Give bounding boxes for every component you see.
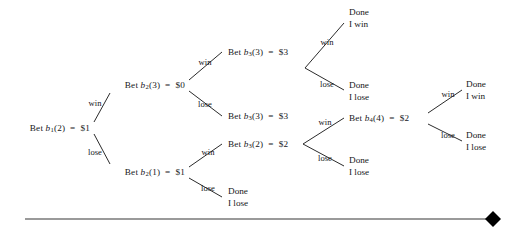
betting-decision-tree: Bet b1(2) = $1 Bet b2(3) = $0 Bet b2(1) … (0, 0, 521, 236)
terminal-outcome: Done I lose (349, 155, 369, 178)
terminal-outcome: Done I win (349, 7, 369, 30)
terminal-line-done: Done (349, 155, 369, 167)
terminal-outcome: Done I lose (228, 186, 248, 209)
terminal-line-done: Done (466, 130, 486, 142)
edge-label-b23-lose: lose (198, 99, 212, 109)
terminal-line-done: Done (228, 186, 248, 198)
node-bet-b2-1: Bet b2(1) = $1 (125, 167, 185, 178)
edge-label-b44-lose: lose (441, 130, 455, 140)
terminal-line-result: I lose (349, 91, 369, 103)
node-bet-b1-2: Bet b1(2) = $1 (30, 123, 90, 134)
terminal-line-result: I lose (228, 197, 248, 209)
edge-label-b32-lose: lose (318, 153, 332, 163)
edge-label-root-lose: lose (88, 147, 102, 157)
edge-label-b21-win: win (202, 147, 215, 157)
terminal-line-result: I win (466, 90, 486, 102)
terminal-line-done: Done (349, 7, 369, 19)
terminal-line-done: Done (349, 80, 369, 92)
node-bet-b4-4: Bet b4(4) = $2 (349, 113, 409, 124)
terminal-line-result: I lose (349, 166, 369, 178)
terminal-outcome: Done I lose (466, 130, 486, 153)
edge-label-b33-lose: lose (320, 79, 334, 89)
edge-label-b32-win: win (319, 117, 332, 127)
node-bet-b2-3: Bet b2(3) = $0 (125, 80, 185, 91)
terminal-line-result: I lose (466, 141, 486, 153)
node-bet-b3-3-lower: Bet b3(3) = $3 (228, 111, 288, 122)
terminal-outcome: Done I lose (349, 80, 369, 103)
edge-label-b33-win: win (321, 37, 334, 47)
node-bet-b3-3-upper: Bet b3(3) = $3 (228, 47, 288, 58)
terminal-line-result: I win (349, 18, 369, 30)
edge-label-b21-lose: lose (201, 183, 215, 193)
edge-label-root-win: win (89, 98, 102, 108)
edge-label-b23-win: win (199, 57, 212, 67)
edge-label-b44-win: win (442, 89, 455, 99)
terminal-line-done: Done (466, 79, 486, 91)
node-bet-b3-2: Bet b3(2) = $2 (228, 139, 288, 150)
terminal-outcome: Done I win (466, 79, 486, 102)
